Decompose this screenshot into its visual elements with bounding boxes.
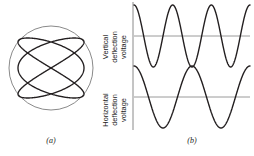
horizontal-label-line-3: voltage [119,98,128,122]
figure-container: (a) Vertical deflection voltage Horizont… [0,0,254,156]
panel-b-group: Vertical deflection voltage Horizontal d… [101,2,250,145]
vertical-label-line-2: deflection [110,31,119,63]
horizontal-label-line-2: deflection [110,94,119,126]
vertical-deflection-label: Vertical deflection voltage [101,31,128,63]
horizontal-label-line-1: Horizontal [101,93,110,127]
lissajous-curve [18,38,84,98]
horizontal-deflection-label: Horizontal deflection voltage [101,93,128,127]
panel-a-group: (a) [9,26,93,145]
figure-svg: (a) Vertical deflection voltage Horizont… [0,0,254,156]
caption-a: (a) [46,136,56,145]
vertical-label-line-1: Vertical [101,35,110,60]
caption-b: (b) [187,136,197,145]
vertical-label-line-3: voltage [119,35,128,59]
